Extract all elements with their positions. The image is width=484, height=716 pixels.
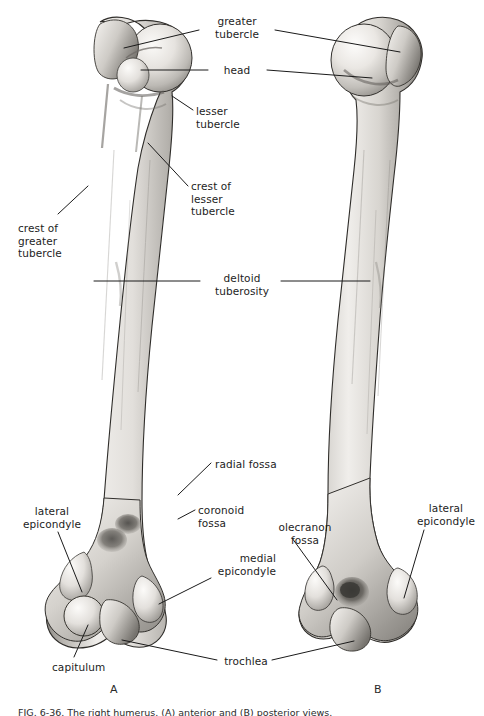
figure-caption: FIG. 6-36. The right humerus. (A) anteri… — [18, 707, 468, 716]
label-greater-tubercle: greater tubercle — [202, 15, 272, 40]
label-lateral-epicondyle-b: lateral epicondyle — [410, 502, 482, 527]
medial-epicondyle-posterior — [305, 566, 334, 610]
label-head: head — [212, 64, 262, 77]
lesser-tubercle-anterior — [117, 58, 149, 92]
label-olecranon-fossa: olecranon fossa — [269, 521, 341, 546]
deltoid-tuberosity-anterior — [116, 262, 121, 306]
coronoid-fossa — [97, 528, 127, 552]
label-crest-of-lesser-tubercle: crest of lesser tubercle — [191, 180, 261, 218]
radial-fossa-leader-leader-line — [178, 463, 211, 495]
capitulum — [64, 596, 104, 636]
lateral-epicondyle-posterior — [387, 568, 417, 614]
panel-letter-a: A — [110, 683, 118, 696]
trochlea-left-leader-line — [122, 640, 217, 660]
crest-of-greater-tubercle-ridge — [102, 84, 108, 148]
coronoid-fossa-leader-leader-line — [178, 510, 195, 519]
panel-letter-b: B — [374, 683, 382, 696]
medial-epicondyle-leader-leader-line — [159, 578, 211, 604]
label-radial-fossa: radial fossa — [215, 458, 295, 471]
humerus-anterior — [45, 17, 192, 648]
label-capitulum: capitulum — [52, 661, 122, 674]
label-trochlea: trochlea — [220, 655, 272, 668]
humerus-figure: greater tubercleheadlesser tuberclecrest… — [0, 0, 484, 716]
olecranon-fossa-depth — [340, 582, 360, 598]
label-lesser-tubercle: lesser tubercle — [196, 105, 266, 130]
humerus-posterior — [299, 17, 422, 651]
label-coronoid-fossa: coronoid fossa — [198, 504, 268, 529]
crest-of-lesser-tubercle-ridge — [136, 96, 142, 152]
trochlea-right-leader-line — [272, 641, 354, 660]
label-deltoid-tuberosity: deltoid tuberosity — [205, 272, 279, 297]
crest-greater-tubercle-leader-leader-line — [58, 186, 88, 214]
label-lateral-epicondyle-a: lateral epicondyle — [16, 505, 88, 530]
label-crest-of-greater-tubercle: crest of greater tubercle — [18, 222, 90, 260]
label-medial-epicondyle: medial epicondyle — [204, 552, 276, 577]
lesser-tubercle-leader-leader-line — [172, 96, 193, 110]
